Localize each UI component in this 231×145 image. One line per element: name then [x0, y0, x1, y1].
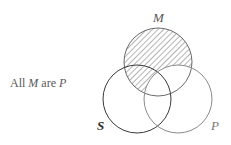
- label-s: S: [97, 118, 104, 133]
- venn-diagram: M S P: [0, 0, 231, 145]
- label-m: M: [152, 10, 165, 25]
- label-p: P: [210, 118, 219, 133]
- shaded-region-m-not-p: [120, 24, 200, 104]
